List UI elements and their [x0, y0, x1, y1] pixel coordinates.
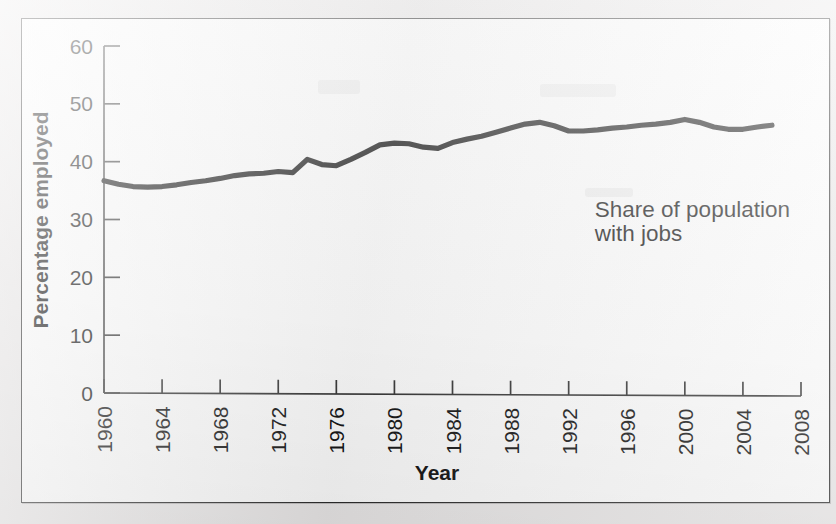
- cut-off-caption: [8, 512, 438, 524]
- figure-page: 0102030405060 19601964196819721976198019…: [0, 0, 836, 524]
- figure-frame: [21, 18, 830, 503]
